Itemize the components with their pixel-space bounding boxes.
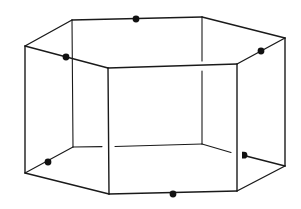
midpoint-top-back-edge (133, 16, 140, 23)
midpoint-bottom-back-right-edge (242, 152, 247, 159)
edge-bottom-front-right (237, 166, 285, 191)
edge-bottom-back-right-diagonal (202, 144, 231, 153)
edge-bottom-back-right (115, 144, 202, 147)
marked-points (45, 16, 265, 198)
midpoint-bottom-back-left-edge (45, 159, 52, 166)
edge-bottom-front-left (25, 173, 109, 194)
edge-top-back-right (202, 17, 285, 38)
top-face (25, 17, 285, 68)
midpoint-top-front-right-edge (258, 48, 265, 55)
edge-top-left-back (25, 20, 72, 46)
midpoint-bottom-front-edge (170, 191, 177, 198)
midpoint-top-front-left-edge (63, 54, 70, 61)
edge-back-left-vertical (72, 20, 73, 147)
edge-top-front (108, 64, 237, 68)
back-edges (72, 17, 285, 166)
hexagonal-prism-diagram (0, 0, 301, 209)
edge-front-left-vertical (108, 68, 109, 194)
edge-bottom-back-right-diagonal-visible (244, 156, 285, 167)
front-verticals (25, 38, 285, 194)
